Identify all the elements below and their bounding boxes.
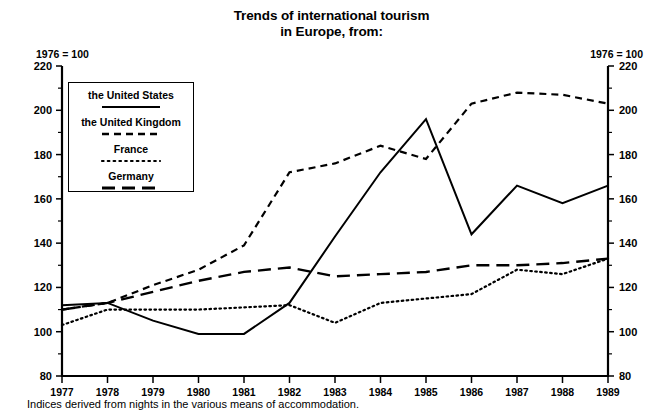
chart-footnote: Indices derived from nights in the vario… (27, 398, 359, 410)
chart-legend: the United States the United Kingdom Fra… (68, 82, 194, 192)
y-axis-label-right: 80 (619, 370, 631, 382)
y-axis-label-left: 180 (34, 149, 52, 161)
x-axis-label: 1980 (187, 386, 211, 398)
y-axis-label-right: 100 (619, 326, 637, 338)
legend-label-0: the United States (69, 88, 193, 102)
y-axis-label-left: 120 (34, 281, 52, 293)
legend-item-2: France (69, 142, 193, 169)
y-axis-label-left: 160 (34, 193, 52, 205)
x-axis-label: 1985 (414, 386, 438, 398)
legend-label-2: France (69, 142, 193, 156)
legend-label-3: Germany (69, 169, 193, 183)
x-axis-label: 1977 (50, 386, 74, 398)
y-axis-label-left: 200 (34, 104, 52, 116)
y-axis-label-left: 80 (40, 370, 52, 382)
y-axis-label-right: 220 (619, 60, 637, 72)
legend-swatch-dotted (100, 158, 162, 164)
x-axis-label: 1981 (232, 386, 256, 398)
y-axis-label-left: 220 (34, 60, 52, 72)
legend-item-0: the United States (69, 88, 193, 115)
y-axis-label-right: 120 (619, 281, 637, 293)
x-axis-label: 1988 (551, 386, 575, 398)
x-axis-label: 1989 (596, 386, 620, 398)
legend-swatch-solid (100, 104, 162, 110)
x-axis-label: 1983 (323, 386, 347, 398)
y-axis-label-left: 100 (34, 326, 52, 338)
y-axis-label-right: 180 (619, 149, 637, 161)
x-axis-label: 1982 (278, 386, 302, 398)
legend-swatch-long-dash (100, 185, 162, 191)
legend-item-3: Germany (69, 169, 193, 196)
series-line-3 (62, 259, 608, 310)
x-axis-label: 1984 (369, 386, 393, 398)
legend-item-1: the United Kingdom (69, 115, 193, 142)
legend-label-1: the United Kingdom (69, 115, 193, 129)
x-axis-label: 1978 (96, 386, 120, 398)
x-axis-label: 1987 (505, 386, 529, 398)
y-axis-label-right: 140 (619, 237, 637, 249)
y-axis-label-right: 200 (619, 104, 637, 116)
series-line-2 (62, 259, 608, 325)
legend-swatch-short-dash (100, 131, 162, 137)
y-axis-label-right: 160 (619, 193, 637, 205)
chart-plot-area: 8080100100120120140140160160180180200200… (0, 0, 663, 418)
y-axis-label-left: 140 (34, 237, 52, 249)
x-axis-label: 1986 (460, 386, 484, 398)
x-axis-label: 1979 (141, 386, 165, 398)
